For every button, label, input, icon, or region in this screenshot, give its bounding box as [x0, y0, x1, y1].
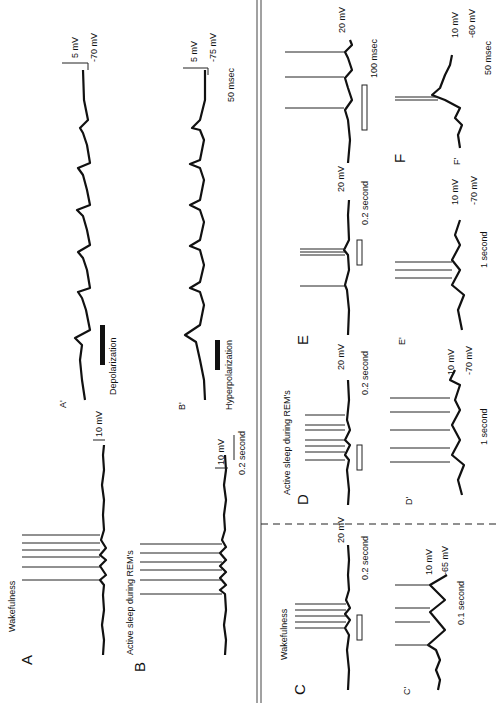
panel-letter: F: [391, 154, 408, 163]
panel-letter: B: [131, 662, 148, 672]
scale-v: 5 mV: [70, 37, 80, 58]
resting-potential: -70 mV: [464, 346, 474, 375]
panel-letter: B': [177, 402, 187, 410]
scale-t: 1 second: [479, 408, 489, 445]
panel-letter: A': [58, 400, 68, 408]
figure: A Wakefulness 10 mV B Active sleep durin…: [0, 0, 499, 703]
state-label: Active sleep during REM's: [282, 390, 292, 495]
panel-letter: E: [294, 335, 311, 345]
resting-potential: -60 mV: [467, 9, 477, 38]
scale-v: 10 mV: [450, 179, 460, 205]
panel-A-prime: A' Depolarization 5 mV -70 mV: [58, 33, 118, 408]
panel-E: E 20 mV 0.2 second: [294, 166, 370, 345]
resting-potential: -65 mV: [440, 546, 450, 575]
resting-potential: -75 mV: [208, 33, 218, 62]
panel-F-prime: F' 10 mV -60 mV 50 msec: [395, 9, 493, 165]
bar-label: Hyperpolarization: [224, 340, 234, 410]
scale-t: 50 msec: [483, 40, 493, 75]
scale-t: 0.2 second: [360, 351, 370, 395]
scale-v: 20 mV: [336, 517, 346, 543]
panel-B: B Active sleep during REM's 10 mV 0.2 se…: [125, 431, 247, 672]
scale-v: 10 mV: [446, 349, 456, 375]
panel-letter: E': [397, 337, 407, 345]
state-label: Wakefulness: [279, 608, 289, 660]
panel-letter: C': [402, 687, 412, 695]
panel-C-prime: C' 0.1 second 10 mV -65 mV: [395, 546, 466, 695]
scale-t: 50 msec: [226, 67, 236, 102]
scale-t: 0.1 second: [456, 581, 466, 625]
scale-t: 0.2 second: [237, 431, 247, 475]
panel-letter: D: [294, 494, 311, 505]
panel-B-prime: B' Hyperpolarization 5 mV -75 mV 50 msec: [177, 33, 236, 410]
panel-C: C Wakefulness 20 mV 0.2 second: [279, 517, 370, 695]
scale-v: 10 mV: [424, 549, 434, 575]
panel-letter: F': [452, 158, 462, 165]
scale-t: 0.2 second: [360, 181, 370, 225]
state-label: Wakefulness: [7, 580, 17, 632]
resting-potential: -70 mV: [469, 176, 479, 205]
scale-t: 100 msec: [369, 38, 379, 78]
scale-v: 20 mV: [336, 344, 346, 370]
scale-v: 20 mV: [336, 166, 346, 192]
scale-v: 10 mV: [94, 411, 104, 437]
panel-E-prime: E' 1 second 10 mV -70 mV: [395, 176, 489, 345]
state-label: Active sleep during REM's: [125, 550, 135, 655]
scale-v: 10 mV: [216, 439, 226, 465]
scale-v: 20 mV: [337, 7, 347, 33]
bar-label: Depolarization: [108, 337, 118, 395]
panel-D-prime: D' 1 second 10 mV -70 mV: [390, 346, 489, 505]
panel-letter: D': [404, 497, 414, 505]
panel-D: D Active sleep during REM's 20 mV 0.2 se…: [282, 344, 370, 505]
resting-potential: -70 mV: [89, 33, 99, 62]
scale-v: 10 mV: [450, 12, 460, 38]
scale-t: 0.2 second: [360, 536, 370, 580]
scale-v: 5 mV: [189, 41, 199, 62]
panel-F: F 20 mV 100 msec: [285, 7, 408, 163]
scale-t: 1 second: [479, 231, 489, 268]
panel-letter: C: [291, 684, 308, 695]
panel-A: A Wakefulness 10 mV: [7, 411, 106, 665]
panel-letter: A: [18, 655, 35, 665]
